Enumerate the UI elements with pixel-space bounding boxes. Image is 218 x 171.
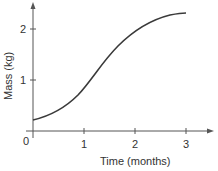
y-tick-label-2: 2 bbox=[20, 23, 26, 35]
y-axis-arrow-icon bbox=[31, 2, 36, 9]
growth-chart: 2 1 0 1 2 3 Time (months) Mass (kg) bbox=[0, 0, 218, 171]
origin-label: 0 bbox=[23, 135, 29, 147]
x-tick-label-2: 2 bbox=[132, 138, 138, 150]
x-axis-arrow-icon bbox=[207, 129, 214, 134]
y-tick-label-1: 1 bbox=[20, 74, 26, 86]
x-tick-label-1: 1 bbox=[81, 138, 87, 150]
mass-curve bbox=[33, 13, 186, 120]
x-tick-label-3: 3 bbox=[183, 138, 189, 150]
x-axis-label: Time (months) bbox=[100, 155, 171, 167]
y-axis-label: Mass (kg) bbox=[2, 52, 14, 100]
